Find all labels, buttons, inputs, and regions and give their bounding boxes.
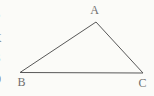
clipped-text-fragment: X: [0, 32, 2, 44]
triangle-outline: [20, 22, 143, 73]
figure-canvas: A B C E X S 0: [0, 0, 154, 96]
vertex-label-a: A: [90, 4, 99, 16]
vertex-label-c: C: [138, 77, 146, 89]
clipped-text-fragment: 0: [0, 73, 1, 85]
clipped-text-fragment: S: [0, 52, 1, 64]
vertex-label-b: B: [17, 76, 25, 88]
